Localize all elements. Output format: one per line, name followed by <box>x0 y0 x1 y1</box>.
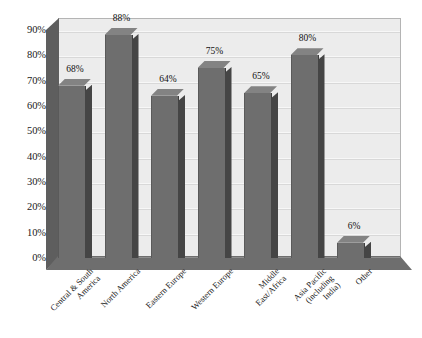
x-axis-category-labels: Central & SouthAmericaNorth AmericaEaste… <box>0 0 422 338</box>
bar-chart: 90%80%70%60%50%40%30%20%10%0% 68%88%64%7… <box>0 0 422 338</box>
